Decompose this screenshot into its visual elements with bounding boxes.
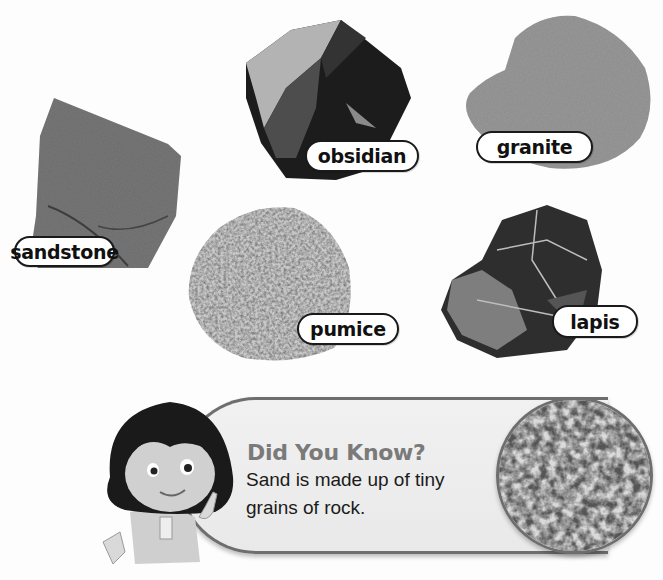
pumice-label: pumice [297, 313, 399, 345]
sand-grains-image [496, 397, 653, 554]
did-you-know-title: Did You Know? [247, 440, 426, 465]
lapis-label: lapis [552, 305, 638, 338]
obsidian-label: obsidian [305, 140, 419, 172]
did-you-know-text: Sand is made up of tiny grains of rock. [246, 466, 501, 522]
girl-character-illustration [95, 392, 245, 577]
granite-label: granite [476, 131, 593, 163]
sandstone-label: sandstone [14, 236, 115, 267]
